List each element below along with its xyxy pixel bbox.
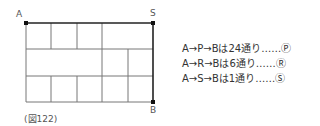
grid-diagram	[0, 0, 170, 126]
point-b-dot	[151, 100, 155, 104]
point-a-dot	[24, 21, 28, 25]
path-count-notes: A→P→Bは24通り……Ⓟ A→R→Bは6通り……Ⓡ A→S→Bは1通り……Ⓢ	[182, 41, 291, 86]
note-s: A→S→Bは1通り……Ⓢ	[182, 71, 291, 86]
point-s-dot	[151, 21, 155, 25]
point-a-label: A	[16, 10, 22, 19]
figure-caption: (図122)	[24, 112, 57, 125]
point-b-label: B	[150, 106, 156, 115]
note-p: A→P→Bは24通り……Ⓟ	[182, 41, 291, 56]
note-r: A→R→Bは6通り……Ⓡ	[182, 56, 291, 71]
point-s-label: S	[150, 9, 156, 18]
